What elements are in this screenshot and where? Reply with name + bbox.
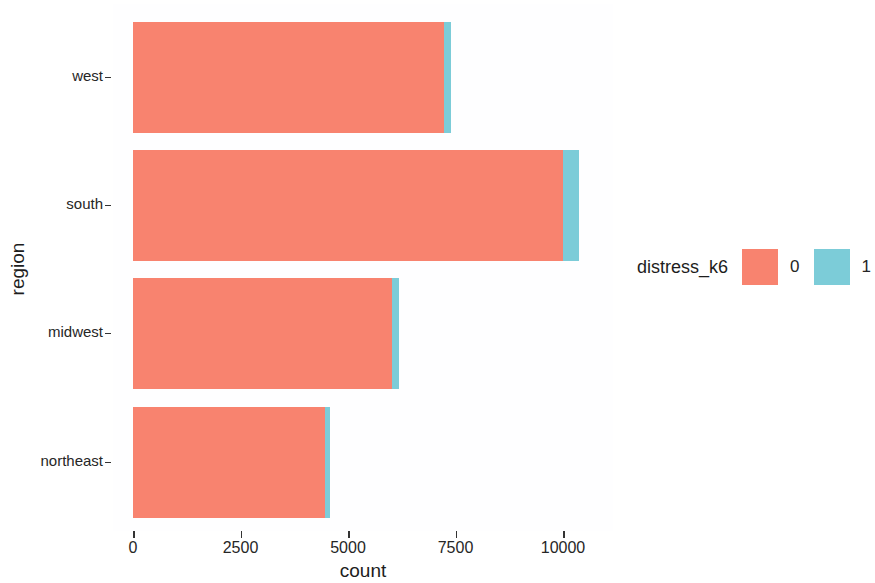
y-tick-label-northeast: northeast	[3, 452, 103, 469]
bar-segment-northeast-1[interactable]	[325, 407, 330, 518]
y-tick-mark-northeast	[105, 462, 111, 464]
legend-title: distress_k6	[637, 257, 728, 278]
bar-west[interactable]	[113, 22, 613, 133]
x-tick-mark-5000	[348, 531, 350, 538]
x-tick-label-5000: 5000	[288, 539, 408, 557]
bar-segment-midwest-1[interactable]	[392, 278, 399, 389]
bar-segment-west-0[interactable]	[133, 22, 444, 133]
legend-key-1[interactable]: 1	[814, 249, 871, 285]
bar-segment-south-0[interactable]	[133, 150, 563, 261]
bar-segment-west-1[interactable]	[444, 22, 451, 133]
x-tick-label-7500: 7500	[396, 539, 516, 557]
x-tick-mark-7500	[456, 531, 458, 538]
legend: distress_k6 0 1	[637, 247, 875, 287]
y-tick-label-west: west	[3, 67, 103, 84]
x-axis-title: count	[113, 560, 613, 582]
bar-segment-south-1[interactable]	[563, 150, 579, 261]
x-tick-label-2500: 2500	[181, 539, 301, 557]
bar-segment-northeast-0[interactable]	[133, 407, 325, 518]
bar-northeast[interactable]	[113, 407, 613, 518]
x-tick-label-0: 0	[73, 539, 193, 557]
plot-panel	[113, 4, 613, 531]
bar-segment-midwest-0[interactable]	[133, 278, 392, 389]
x-tick-label-10000: 10000	[503, 539, 623, 557]
y-tick-mark-south	[105, 205, 111, 207]
x-tick-mark-0	[133, 531, 135, 538]
y-tick-mark-midwest	[105, 333, 111, 335]
legend-label-1: 1	[862, 257, 871, 277]
bar-south[interactable]	[113, 150, 613, 261]
x-tick-mark-10000	[563, 531, 565, 538]
legend-key-0[interactable]: 0	[742, 249, 799, 285]
bar-midwest[interactable]	[113, 278, 613, 389]
legend-label-0: 0	[790, 257, 799, 277]
y-tick-label-midwest: midwest	[3, 323, 103, 340]
legend-swatch-1	[814, 249, 850, 285]
y-tick-mark-west	[105, 77, 111, 79]
y-axis-title: region	[7, 229, 29, 309]
x-tick-mark-2500	[241, 531, 243, 538]
legend-swatch-0	[742, 249, 778, 285]
y-tick-label-south: south	[3, 195, 103, 212]
